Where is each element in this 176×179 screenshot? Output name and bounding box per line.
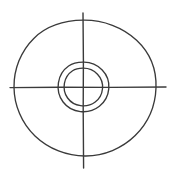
- outer-circle: [14, 20, 156, 156]
- horizontal-axis-line: [10, 87, 166, 88]
- vertical-axis-line: [83, 13, 84, 168]
- figure-canvas: [0, 0, 176, 179]
- concentric-circles-diagram: [0, 0, 176, 179]
